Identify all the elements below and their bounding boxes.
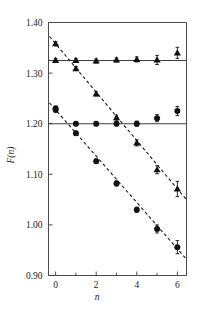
- plot-background: [0, 0, 197, 309]
- x-axis-title: n: [95, 292, 100, 302]
- x-tick-label-2: 4: [134, 280, 139, 290]
- y-tick-label-1: 1.00: [26, 220, 43, 230]
- data-point-circle: [174, 108, 180, 114]
- data-point-circle: [53, 107, 59, 113]
- figure-container: 0.901.001.101.201.301.400246 n F(n): [0, 0, 197, 309]
- y-tick-label-3: 1.20: [26, 119, 43, 129]
- y-axis-title: F(n): [6, 147, 17, 165]
- data-point-circle: [154, 226, 160, 232]
- data-point-circle: [73, 130, 79, 136]
- data-point-circle: [134, 207, 140, 213]
- y-tick-label-5: 1.40: [26, 18, 43, 28]
- data-point-circle: [134, 121, 140, 127]
- data-point-circle: [174, 244, 180, 250]
- data-point-circle: [154, 115, 160, 121]
- y-tick-label-2: 1.10: [26, 170, 43, 180]
- data-point-circle: [113, 180, 119, 186]
- data-point-circle: [93, 121, 99, 127]
- y-tick-label-0: 0.90: [26, 271, 43, 281]
- x-tick-label-1: 2: [94, 280, 99, 290]
- data-point-circle: [113, 121, 119, 127]
- y-tick-label-4: 1.30: [26, 69, 43, 79]
- x-tick-label-0: 0: [53, 280, 58, 290]
- scatter-plot: 0.901.001.101.201.301.400246 n F(n): [0, 0, 197, 309]
- data-point-circle: [93, 158, 99, 164]
- data-point-circle: [73, 121, 79, 127]
- x-tick-label-3: 6: [175, 280, 180, 290]
